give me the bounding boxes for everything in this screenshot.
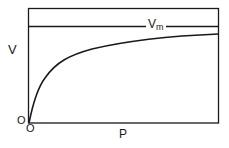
origin-y-label: O	[17, 115, 26, 126]
vm-subscript: m	[156, 22, 164, 32]
asymptote-label-vm: Vm	[146, 18, 166, 32]
x-axis-label: P	[119, 128, 127, 140]
saturation-curve	[29, 34, 219, 123]
vm-main: V	[148, 17, 156, 31]
origin-x-label: O	[26, 123, 35, 134]
y-axis-label: V	[8, 43, 17, 56]
